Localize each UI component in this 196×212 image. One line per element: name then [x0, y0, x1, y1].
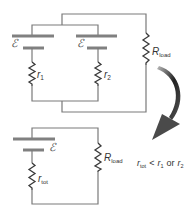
inner-top-wire [32, 25, 98, 36]
arrow-head-icon [152, 114, 180, 140]
battery-2: ℰ [76, 36, 117, 49]
rload-bottom-label: Rload [104, 152, 123, 164]
emf-1-label: ℰ [11, 37, 19, 49]
eq-top-wire [32, 128, 98, 143]
arrow-shaft [157, 66, 180, 120]
rtot-label: rtot [38, 173, 48, 185]
r2-label: r2 [104, 69, 111, 81]
eq-bottom-wire [32, 172, 98, 204]
circuit-diagram: ℰ r1 ℰ r2 Rload [0, 0, 196, 212]
resistor-rtot [29, 163, 35, 190]
outer-top-wire [62, 14, 146, 33]
rload-top-label: Rload [152, 46, 171, 58]
inner-bottom-wire [32, 86, 98, 101]
emf-2-label: ℰ [77, 37, 85, 49]
transform-arrow [152, 66, 180, 140]
relation-text: rtot<r1orr2 [137, 158, 184, 169]
resistor-rload-top [143, 33, 149, 65]
battery-1: ℰ [11, 36, 54, 49]
resistor-r1 [29, 62, 35, 86]
equivalent-battery: ℰ [13, 139, 57, 153]
resistor-rload-bottom [95, 143, 101, 172]
eq-emf-label: ℰ [49, 141, 57, 153]
r1-label: r1 [37, 69, 44, 81]
resistor-r2 [95, 62, 101, 86]
equivalent-circuit: ℰ rtot Rload [13, 128, 123, 204]
parallel-battery-circuit: ℰ r1 ℰ r2 Rload [11, 14, 171, 112]
